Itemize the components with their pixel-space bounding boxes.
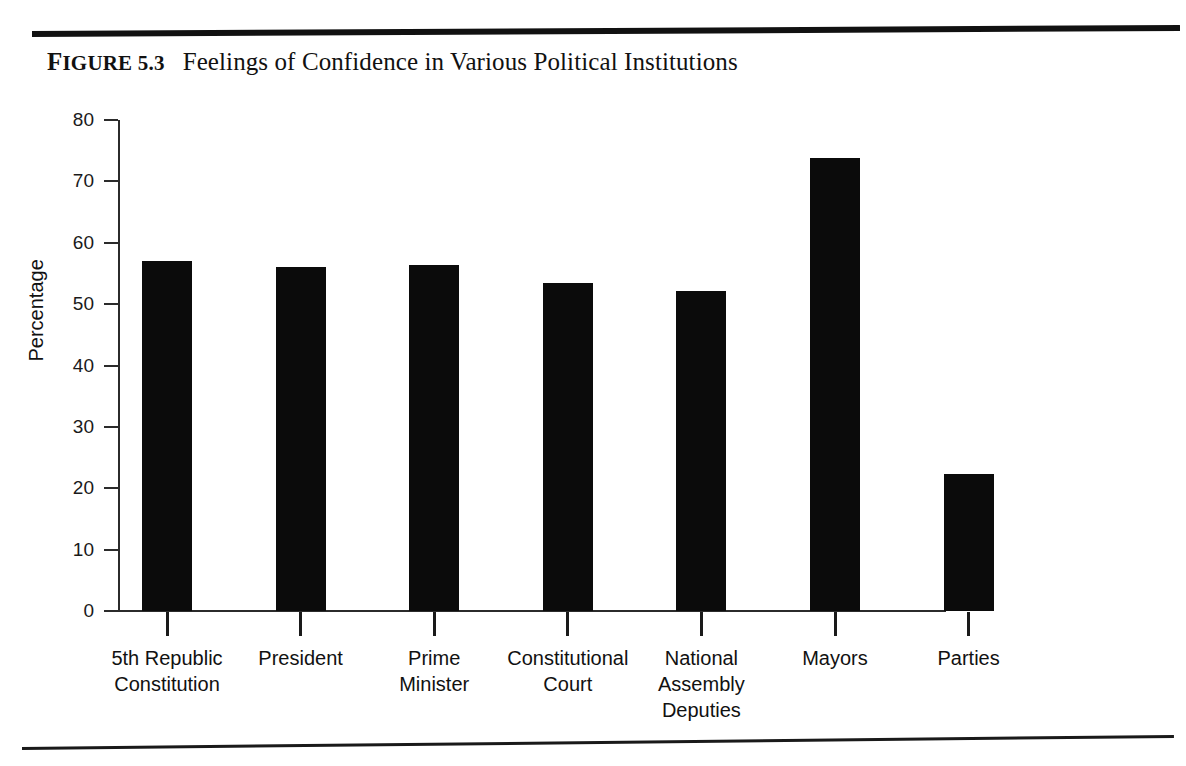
x-tick-mark [299, 612, 302, 636]
x-axis-label-line: Parties [879, 645, 1059, 671]
y-tick-mark [104, 242, 118, 244]
y-tick-mark [104, 487, 118, 489]
bar [944, 474, 994, 611]
x-tick-mark [566, 612, 569, 636]
x-axis-label: Parties [879, 645, 1059, 671]
x-tick-mark [700, 612, 703, 636]
x-axis-label-line: Assembly [611, 671, 791, 697]
bar [543, 283, 593, 611]
y-tick-mark [104, 426, 118, 428]
y-tick-mark [104, 119, 118, 121]
bar [276, 267, 326, 611]
figure-container: FIGURE 5.3Feelings of Confidence in Vari… [0, 0, 1186, 766]
y-axis-title: Percentage [25, 322, 48, 362]
x-tick-mark [834, 612, 837, 636]
x-axis-label-line: Deputies [611, 697, 791, 723]
x-tick-mark [433, 612, 436, 636]
x-tick-mark [166, 612, 169, 636]
y-tick-label: 10 [48, 540, 94, 559]
bar [409, 265, 459, 611]
bar [810, 158, 860, 611]
y-axis-line [118, 120, 120, 612]
y-tick-mark [104, 303, 118, 305]
y-tick-label: 70 [48, 171, 94, 190]
bar-chart: Percentage 80706050403020100 5th Republi… [0, 0, 1186, 766]
bar [142, 261, 192, 611]
y-tick-mark [104, 180, 118, 182]
y-tick-label: 50 [48, 294, 94, 313]
x-axis-label-line: Constitution [77, 671, 257, 697]
y-tick-label: 60 [48, 233, 94, 252]
x-tick-mark [967, 612, 970, 636]
y-tick-label: 40 [48, 356, 94, 375]
y-tick-mark [104, 610, 118, 612]
y-tick-label: 20 [48, 478, 94, 497]
y-tick-label: 30 [48, 417, 94, 436]
y-tick-mark [104, 549, 118, 551]
y-tick-label: 80 [48, 110, 94, 129]
bar [676, 291, 726, 611]
y-tick-label: 0 [48, 601, 94, 620]
y-tick-mark [104, 365, 118, 367]
